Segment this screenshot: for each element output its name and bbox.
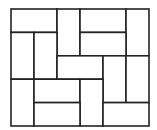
horizontal-domino <box>80 32 126 55</box>
horizontal-domino <box>34 103 80 126</box>
vertical-domino <box>103 56 126 103</box>
horizontal-domino <box>34 79 80 102</box>
vertical-domino <box>11 79 34 126</box>
domino-tiling-diagram <box>0 0 157 130</box>
horizontal-domino <box>57 56 103 79</box>
vertical-domino <box>80 79 103 126</box>
vertical-domino <box>57 9 80 56</box>
horizontal-domino <box>11 9 57 32</box>
horizontal-domino <box>103 103 149 126</box>
vertical-domino <box>126 9 149 56</box>
vertical-domino <box>126 56 149 103</box>
vertical-domino <box>34 32 57 79</box>
horizontal-domino <box>80 9 126 32</box>
vertical-domino <box>11 32 34 79</box>
